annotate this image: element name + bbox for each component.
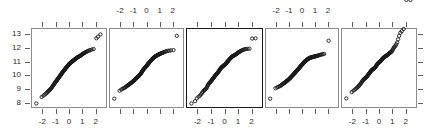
qq-plot-figure: -2-10128910111213-2-1012-2-1012-2-1012-2…	[0, 0, 429, 136]
data-point	[345, 97, 348, 100]
data-point	[405, 0, 408, 2]
data-point	[409, 0, 412, 2]
plot-panel-3	[186, 28, 263, 108]
series-quantiles	[345, 0, 412, 100]
data-point	[402, 27, 405, 30]
